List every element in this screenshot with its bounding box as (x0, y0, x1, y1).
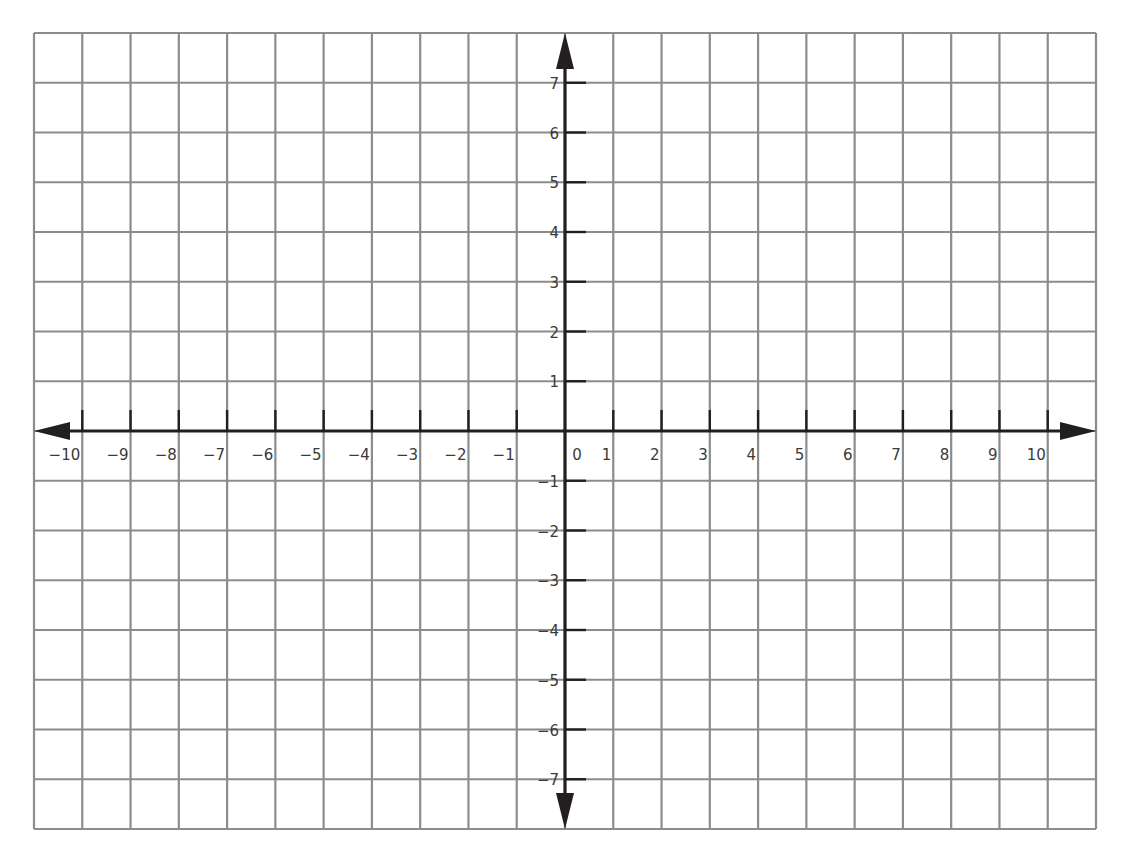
x-tick-label: −7 (203, 446, 225, 464)
y-tick-label: 4 (549, 224, 559, 242)
y-tick-label: −1 (537, 473, 559, 491)
x-tick-label: 4 (747, 446, 757, 464)
axes (34, 33, 1096, 829)
coordinate-plane: 0 −10−9−8−7−6−5−4−3−2−112345678910765432… (0, 0, 1121, 849)
y-tick-label: −6 (537, 722, 559, 740)
x-tick-label: −10 (49, 446, 81, 464)
y-tick-label: 6 (549, 125, 559, 143)
x-tick-label: −6 (251, 446, 273, 464)
x-tick-label: 5 (795, 446, 805, 464)
x-tick-label: 8 (940, 446, 950, 464)
origin-label: 0 (572, 446, 582, 464)
x-tick-label: 6 (843, 446, 853, 464)
y-tick-label: 2 (549, 324, 559, 342)
y-tick-label: −4 (537, 622, 559, 640)
y-axis-up-arrow-icon (556, 33, 574, 69)
y-tick-label: −5 (537, 672, 559, 690)
y-tick-label: 5 (549, 174, 559, 192)
x-tick-label: 3 (698, 446, 708, 464)
y-tick-label: 3 (549, 274, 559, 292)
x-tick-label: 9 (988, 446, 998, 464)
x-tick-label: −9 (106, 446, 128, 464)
y-tick-label: 7 (549, 75, 559, 93)
x-tick-label: 10 (1027, 446, 1046, 464)
x-tick-label: −8 (155, 446, 177, 464)
x-axis-left-arrow-icon (34, 422, 70, 440)
x-tick-label: 2 (650, 446, 660, 464)
y-tick-label: −7 (537, 771, 559, 789)
y-tick-label: −3 (537, 572, 559, 590)
x-tick-label: −3 (396, 446, 418, 464)
x-tick-label: 1 (602, 446, 612, 464)
x-tick-label: −4 (348, 446, 370, 464)
x-tick-label: 7 (891, 446, 901, 464)
y-tick-label: 1 (549, 373, 559, 391)
x-axis-right-arrow-icon (1060, 422, 1096, 440)
x-tick-label: −2 (444, 446, 466, 464)
x-tick-label: −1 (493, 446, 515, 464)
x-tick-label: −5 (300, 446, 322, 464)
y-tick-label: −2 (537, 523, 559, 541)
y-axis-down-arrow-icon (556, 793, 574, 829)
